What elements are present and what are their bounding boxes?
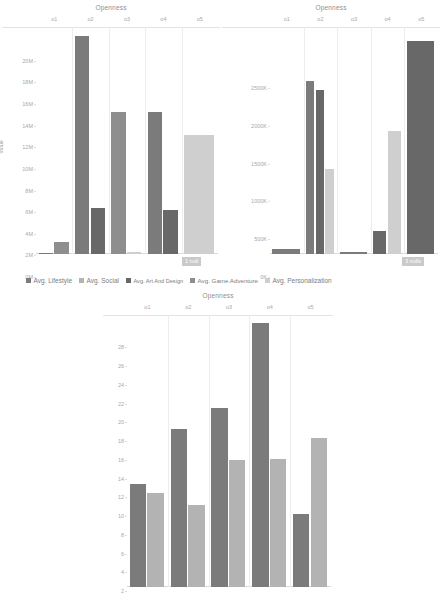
x-tick-label-o4: o4 xyxy=(385,16,391,22)
y-tick-label: 1500K xyxy=(251,161,267,167)
group-separator xyxy=(290,315,291,587)
y-tick-label: 12M xyxy=(22,144,33,150)
y-tick-label: 2M xyxy=(25,252,33,258)
x-tick-label-o2: o2 xyxy=(88,16,94,22)
bar[interactable] xyxy=(148,112,162,254)
legend-item-3[interactable]: Avg. Game Adventure xyxy=(190,277,258,284)
bar[interactable] xyxy=(340,252,368,254)
legend-swatch-icon xyxy=(190,278,195,283)
y-tick-label: 14M xyxy=(22,123,33,129)
bar[interactable] xyxy=(54,242,68,254)
bar[interactable] xyxy=(293,514,309,587)
x-tick-label-o1: o1 xyxy=(51,16,57,22)
group-separator xyxy=(249,315,250,587)
group-separator xyxy=(209,315,210,587)
group-separator xyxy=(337,27,338,254)
y-tick-mark xyxy=(125,591,127,592)
y-tick-label: 8 xyxy=(121,532,124,538)
legend-item-2[interactable]: Avg. Art And Design xyxy=(126,278,183,284)
group-separator xyxy=(72,27,73,254)
chart3-x-axis: o1o2o3o4o5 xyxy=(103,302,333,316)
chart1-x-axis: o1o2o3o4o5 xyxy=(2,14,220,28)
y-tick-label: 16M xyxy=(22,101,33,107)
y-tick-mark xyxy=(34,255,36,256)
bar[interactable] xyxy=(311,438,327,587)
bar[interactable] xyxy=(130,484,146,587)
group-separator xyxy=(371,27,372,254)
y-tick-label: 16 xyxy=(118,457,124,463)
bar[interactable] xyxy=(407,41,435,254)
x-tick-label-o4: o4 xyxy=(267,304,273,310)
legend-swatch-icon xyxy=(265,278,270,283)
x-tick-label-o3: o3 xyxy=(226,304,232,310)
legend-swatch-icon xyxy=(26,278,31,283)
series-legend: Avg. LifestyleAvg. SocialAvg. Art And De… xyxy=(26,277,332,284)
y-tick-label: 12 xyxy=(118,494,124,500)
x-tick-label-o2: o2 xyxy=(185,304,191,310)
chart3-y-axis: 0246810121416182022242628 xyxy=(103,315,127,587)
chart2-title: Openness xyxy=(222,4,440,11)
bar[interactable] xyxy=(270,459,286,587)
y-tick-label: 22 xyxy=(118,401,124,407)
bar[interactable] xyxy=(272,249,300,254)
x-tick-label-o2: o2 xyxy=(317,16,323,22)
y-tick-label: 18M xyxy=(22,79,33,85)
bar[interactable] xyxy=(325,169,333,255)
bar[interactable] xyxy=(188,505,204,587)
x-tick-label-o3: o3 xyxy=(351,16,357,22)
y-tick-label: 10M xyxy=(22,166,33,172)
bar[interactable] xyxy=(388,131,401,254)
chart-rating-bottom: Openness o1o2o3o4o5 02468101214161820222… xyxy=(103,292,333,595)
bar[interactable] xyxy=(252,323,268,587)
legend-item-label: Avg. Game Adventure xyxy=(198,277,258,284)
bar[interactable] xyxy=(163,210,177,254)
legend-swatch-icon xyxy=(79,278,84,283)
y-tick-label: 20 xyxy=(118,419,124,425)
y-tick-label: 8M xyxy=(25,188,33,194)
y-tick-label: 24 xyxy=(118,382,124,388)
chart1-plot xyxy=(36,27,218,254)
group-separator xyxy=(404,27,405,254)
y-tick-label: 2000K xyxy=(251,123,267,129)
bar[interactable] xyxy=(171,429,187,588)
y-tick-label: 26 xyxy=(118,363,124,369)
legend-item-0[interactable]: Avg. Lifestyle xyxy=(26,277,72,284)
chart2-null-badge: 3 nulls xyxy=(402,257,424,266)
legend-item-label: Avg. Personalization xyxy=(273,277,332,284)
chart1-title: Openness xyxy=(2,4,220,11)
x-tick-label-o1: o1 xyxy=(284,16,290,22)
chart2-x-axis: o1o2o3o4o5 xyxy=(222,14,440,28)
bar[interactable] xyxy=(229,460,245,587)
group-separator xyxy=(182,27,183,254)
bar[interactable] xyxy=(373,231,386,254)
legend-item-label: Avg. Social xyxy=(87,277,119,284)
legend-item-1[interactable]: Avg. Social xyxy=(79,277,119,284)
chart1-y-axis: 0M2M4M6M8M10M12M14M16M18M20M xyxy=(2,27,36,254)
legend-item-4[interactable]: Avg. Personalization xyxy=(265,277,332,284)
y-tick-label: 28 xyxy=(118,344,124,350)
bar[interactable] xyxy=(39,253,53,254)
y-tick-label: 4M xyxy=(25,231,33,237)
chart-installs-right: Openness o1o2o3o4o5 0K500K1000K1500K2000… xyxy=(222,4,440,272)
y-tick-label: 500K xyxy=(254,236,267,242)
x-tick-label-o5: o5 xyxy=(308,304,314,310)
y-tick-label: 2 xyxy=(121,588,124,594)
bar[interactable] xyxy=(306,81,314,254)
bar[interactable] xyxy=(316,90,324,254)
chart3-plot xyxy=(127,315,331,587)
bar[interactable] xyxy=(211,408,227,587)
bar[interactable] xyxy=(75,36,89,254)
y-tick-label: 10 xyxy=(118,513,124,519)
bar[interactable] xyxy=(147,493,163,587)
y-tick-label: 1000K xyxy=(251,198,267,204)
y-tick-label: 20M xyxy=(22,58,33,64)
bar[interactable] xyxy=(91,208,105,254)
bar[interactable] xyxy=(127,252,141,254)
bar[interactable] xyxy=(184,135,214,254)
group-separator xyxy=(168,315,169,587)
bar[interactable] xyxy=(111,112,125,254)
x-tick-label-o3: o3 xyxy=(124,16,130,22)
x-tick-label-o1: o1 xyxy=(144,304,150,310)
chart1-y-axis-label: Value xyxy=(0,140,4,154)
group-separator xyxy=(109,27,110,254)
